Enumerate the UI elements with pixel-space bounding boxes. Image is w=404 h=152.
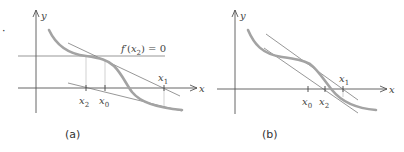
derivative-zero-annotation: f′(x2) = 0 [120,43,166,57]
caption-b: (b) [262,128,278,141]
y-axis-label: y [40,10,47,21]
panel-b: y x x0 x2 x1 (b) [217,10,395,141]
y-axis-label: y [239,10,246,21]
caption-a: (a) [65,128,80,141]
label-x1: x1 [158,72,168,86]
newton-method-figure: · y x x2 x0 x1 f′(x2) = 0 (a) [0,0,404,152]
x-axis-label: x [389,84,395,95]
function-curve [248,30,376,110]
x-axis-label: x [199,83,205,94]
margin-marker: · [2,24,6,37]
panel-a: y x x2 x0 x1 f′(x2) = 0 (a) [18,10,205,141]
label-x2: x2 [79,95,89,109]
label-x1: x1 [339,73,349,87]
function-curve [49,30,182,110]
label-x0: x0 [99,95,109,109]
label-x2: x2 [319,96,329,110]
label-x0: x0 [302,96,312,110]
